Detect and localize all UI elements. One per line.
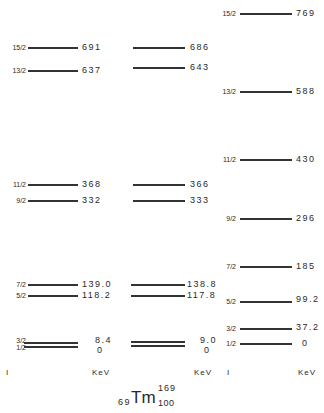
level-line	[133, 47, 185, 49]
spin-axis-label: I	[6, 368, 9, 377]
spin-label: 13/2	[2, 67, 26, 74]
level-line	[28, 284, 78, 286]
level-line	[133, 184, 185, 186]
level-line	[131, 284, 185, 286]
spin-label: 13/2	[212, 88, 236, 95]
energy-label: 332	[82, 195, 102, 205]
energy-label: 139.0	[82, 279, 112, 289]
energy-label: 430	[296, 154, 316, 164]
spin-label: 7/2	[2, 281, 26, 288]
energy-label: 118.2	[82, 290, 111, 300]
energy-label: 368	[82, 179, 102, 189]
spin-label: 5/2	[212, 298, 236, 305]
spin-label: 11/2	[212, 156, 236, 163]
spin-label: 9/2	[2, 197, 26, 204]
spin-label: 15/2	[2, 44, 26, 51]
level-line	[240, 301, 292, 303]
level-line	[131, 295, 185, 297]
nuclide-label: 69 Tm 169 100	[118, 383, 198, 413]
level-line	[28, 295, 78, 297]
level-line	[240, 328, 292, 330]
atomic-number: 69	[118, 397, 131, 407]
level-line	[133, 67, 185, 69]
level-line	[131, 345, 185, 347]
spin-label: 9/2	[212, 215, 236, 222]
level-line	[131, 341, 185, 343]
level-line	[240, 91, 292, 93]
energy-label: 643	[190, 62, 210, 72]
energy-label: 0	[204, 345, 211, 355]
level-line	[24, 342, 78, 344]
energy-label: 185	[296, 261, 316, 271]
spin-label: 11/2	[2, 181, 26, 188]
energy-label: 0	[97, 345, 104, 355]
energy-label: 138.8	[187, 279, 217, 289]
spin-label: 3/2	[212, 325, 236, 332]
spin-label: 7/2	[212, 263, 236, 270]
energy-label: 366	[190, 179, 210, 189]
spin-label: 3/2	[2, 337, 26, 344]
level-line	[240, 13, 292, 15]
energy-label: 0	[302, 338, 309, 348]
level-line	[28, 70, 78, 72]
level-line	[24, 346, 78, 348]
energy-unit-label: KeV	[298, 368, 316, 377]
spin-label: 5/2	[2, 292, 26, 299]
energy-label: 8.4	[95, 335, 112, 345]
energy-label: 333	[190, 195, 210, 205]
level-line	[240, 159, 292, 161]
spin-label: 1/2	[212, 340, 236, 347]
spin-label: 15/2	[212, 10, 236, 17]
energy-label: 99.2	[296, 294, 320, 304]
energy-label: 769	[296, 8, 316, 18]
energy-label: 296	[296, 213, 316, 223]
energy-label: 691	[82, 42, 102, 52]
level-line	[240, 343, 292, 345]
level-line	[28, 184, 78, 186]
level-line	[28, 200, 78, 202]
energy-label: 588	[296, 86, 316, 96]
spin-label: 1/2	[2, 344, 26, 351]
energy-label: 686	[190, 42, 210, 52]
level-line	[28, 47, 78, 49]
energy-unit-label: KeV	[92, 368, 110, 377]
level-line	[240, 266, 292, 268]
energy-label: 37.2	[296, 322, 320, 332]
spin-axis-label: I	[227, 368, 230, 377]
energy-label: 637	[82, 65, 102, 75]
mass-number: 169	[158, 383, 176, 393]
neutron-number: 100	[158, 398, 175, 408]
level-line	[133, 200, 185, 202]
energy-unit-label: KeV	[194, 368, 212, 377]
element-symbol: Tm	[131, 388, 156, 408]
level-line	[240, 218, 292, 220]
